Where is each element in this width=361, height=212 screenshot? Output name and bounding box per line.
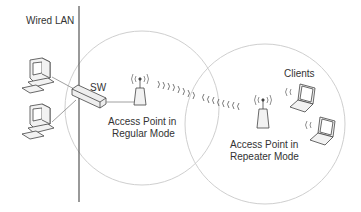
ap-repeater-label-line1: Access Point in bbox=[230, 139, 298, 150]
desktop-pc-icon bbox=[22, 58, 54, 93]
network-diagram: Wired LAN SW Access Point in Regular Mod… bbox=[0, 0, 361, 212]
pc-cable bbox=[52, 77, 76, 90]
switch-label: SW bbox=[90, 82, 107, 93]
access-point-regular-icon bbox=[132, 74, 149, 105]
ap-regular-label-line2: Regular Mode bbox=[112, 128, 175, 139]
laptop-client-icon bbox=[306, 117, 336, 145]
clients-label: Clients bbox=[284, 68, 315, 79]
desktop-pc-icon bbox=[22, 104, 54, 139]
regular-ap-coverage-circle bbox=[65, 31, 219, 185]
laptop-client-icon bbox=[286, 84, 316, 112]
ap-regular-label-line1: Access Point in bbox=[108, 116, 176, 127]
ap-repeater-label-line2: Repeater Mode bbox=[230, 151, 299, 162]
access-point-repeater-icon bbox=[255, 95, 272, 128]
wireless-link-waves-icon bbox=[158, 81, 239, 110]
pc-cable bbox=[52, 100, 76, 122]
wired-lan-label: Wired LAN bbox=[26, 15, 74, 26]
